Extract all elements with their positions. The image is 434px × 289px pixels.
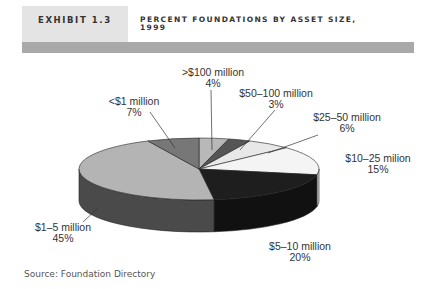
slice-label-value: 20% — [269, 252, 331, 263]
slice-label-value: 3% — [239, 99, 313, 110]
slice-label: $50–100 million3% — [239, 88, 313, 110]
slice-label: $1–5 million45% — [35, 222, 91, 244]
source-note: Source: Foundation Directory — [24, 269, 155, 279]
slice-label: <$1 million7% — [109, 96, 160, 118]
slice-label-value: 45% — [35, 233, 91, 244]
slice-label-value: 15% — [345, 164, 410, 175]
pie-chart — [0, 0, 434, 289]
slice-label: >$100 million4% — [182, 67, 244, 89]
slice-label-value: 4% — [182, 78, 244, 89]
slice-label: $5–10 million20% — [269, 241, 331, 263]
slice-label-value: 7% — [109, 107, 160, 118]
slice-label-value: 6% — [313, 123, 381, 134]
slice-label: $10–25 milion15% — [345, 153, 410, 175]
slice-label: $25–50 million6% — [313, 112, 381, 134]
